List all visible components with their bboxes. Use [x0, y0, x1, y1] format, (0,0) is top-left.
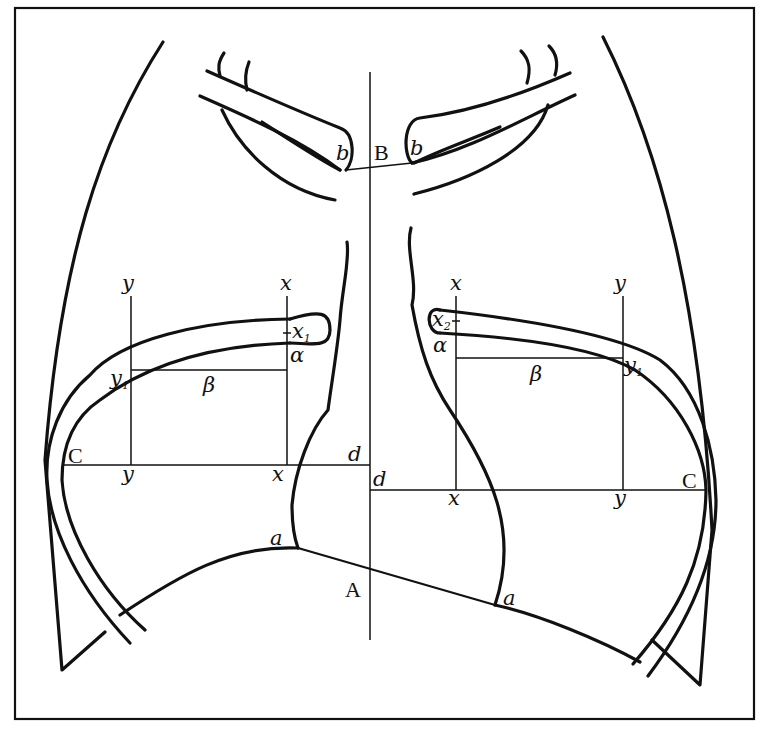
label-y1-left: y1 — [109, 366, 129, 392]
clavicle-left — [200, 53, 352, 200]
label-y-left-top: y — [121, 271, 135, 295]
label-y1-right: y1 — [623, 353, 643, 379]
label-x-right-bottom: x — [448, 486, 460, 510]
label-C-left: C — [68, 443, 83, 468]
label-C-right: C — [682, 468, 697, 493]
label-B: B — [374, 140, 389, 165]
label-d-left: d — [348, 442, 361, 466]
label-y-right-bottom: y — [613, 486, 627, 510]
label-b-right: b — [410, 136, 423, 160]
label-x-left-top: x — [280, 271, 292, 295]
clavicle-right — [406, 46, 575, 194]
body-outline-left — [45, 42, 163, 670]
label-alpha-right: α — [433, 333, 447, 357]
label-x1: x1 — [292, 319, 311, 345]
diaphragm-left — [120, 548, 298, 615]
thorax-diagram: B A C C b b a a d d x x x x y y y y x1 x… — [0, 0, 768, 733]
label-a-left: a — [270, 526, 283, 550]
label-y-right-top: y — [613, 271, 627, 295]
label-b-left: b — [336, 141, 349, 165]
label-x-right-top: x — [450, 271, 462, 295]
a-to-a-line — [298, 548, 495, 605]
diaphragm-right — [495, 605, 640, 662]
label-d-right: d — [373, 467, 386, 491]
label-beta-right: β — [529, 362, 542, 386]
label-alpha-left: α — [290, 343, 304, 367]
label-A: A — [345, 577, 361, 602]
measure-lines-left — [62, 296, 370, 465]
label-y-left-bottom: y — [121, 462, 135, 486]
rib-right — [429, 309, 716, 676]
label-a-right: a — [503, 586, 516, 610]
label-beta-left: β — [202, 373, 215, 397]
heart-outline-left — [292, 242, 348, 548]
label-x-left-bottom: x — [272, 462, 284, 486]
